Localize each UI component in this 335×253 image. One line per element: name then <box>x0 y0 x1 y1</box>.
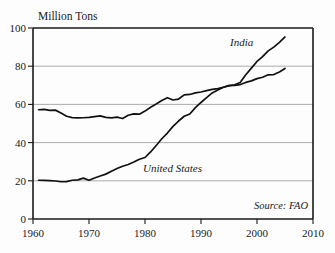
x-tick-label-1970: 1970 <box>78 227 101 239</box>
y-tick-label-80: 80 <box>15 60 27 72</box>
y-axis-title: Million Tons <box>38 10 98 22</box>
line-chart: Million Tons 100 80 60 <box>0 0 335 253</box>
x-tick-label-1960: 1960 <box>22 227 45 239</box>
y-tick-label-100: 100 <box>10 22 27 34</box>
source-note: Source: FAO <box>254 200 308 211</box>
x-tick-label-2000: 2000 <box>246 227 269 239</box>
y-tick-label-20: 20 <box>15 175 27 187</box>
y-tick-label-40: 40 <box>15 137 27 149</box>
series-annotation-india: India <box>229 36 254 48</box>
chart-figure: Million Tons 100 80 60 <box>0 0 335 253</box>
x-tick-label-1990: 1990 <box>190 227 213 239</box>
series-annotation-united-states: United States <box>143 162 202 174</box>
x-tick-label-2010: 2010 <box>302 227 325 239</box>
y-tick-label-0: 0 <box>21 213 27 225</box>
x-tick-label-1980: 1980 <box>134 227 157 239</box>
y-tick-label-60: 60 <box>15 98 27 110</box>
